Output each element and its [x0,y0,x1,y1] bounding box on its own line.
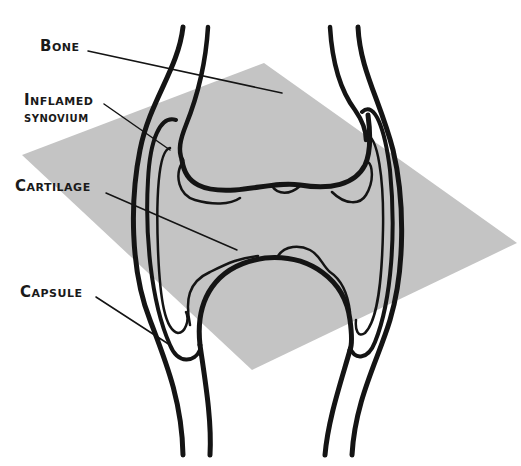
lower-right-bone [325,350,350,455]
label-inflamed-line1: Inflamed [24,92,93,109]
label-inflamed-synovium: Inflamed synovium [24,92,93,126]
joint-diagram: Bone Inflamed synovium Cartilage Capsule [0,0,521,466]
label-bone: Bone [40,38,80,55]
label-inflamed-line2: synovium [24,109,93,126]
lower-left-bone [200,345,210,455]
label-capsule: Capsule [20,284,82,301]
joint-illustration [0,0,521,466]
section-plane [22,63,517,370]
label-cartilage: Cartilage [15,178,91,195]
